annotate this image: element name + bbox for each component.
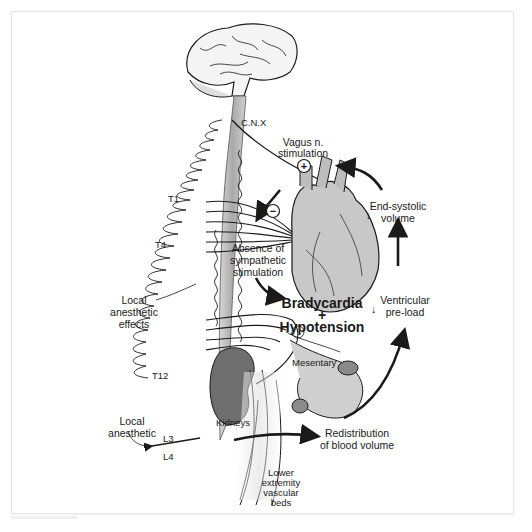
label-redistribution-2: of blood volume [320,439,394,451]
label-t4: T4 [155,239,166,250]
label-l3: L3 [163,433,174,444]
label-preload-2: pre-load [386,306,425,318]
arrow-sympathetic-to-brady [256,278,282,298]
intestine-illustration [286,332,363,418]
label-local-anesthetic-1: Local [119,415,144,427]
label-kidneys: Kidneys [216,417,250,428]
local-effects-pointer [156,284,196,300]
label-preload-1: Ventricular [380,294,430,306]
label-esv-1: End-systolic [370,200,427,212]
minus-icon: − [267,205,280,218]
label-hypotension: Hypotension [280,319,365,335]
heart-illustration [292,156,379,312]
brain-illustration [187,24,297,97]
down-arrow-preload: ↓ [371,303,376,315]
label-local-effects-2: anesthetic [110,306,158,318]
diagram-canvas: + − C.N.X Vagus n. stimulation T1 T4 T12… [0,0,532,532]
label-vagus-2: stimulation [278,147,328,159]
ganglia-chain [215,230,218,326]
label-absence-2: sympathetic [230,254,286,266]
label-local-anesthetic-2: anesthetic [108,427,156,439]
svg-text:−: − [270,205,276,217]
label-mesentary: Mesentary [292,357,337,368]
label-redistribution-1: Redistribution [325,427,389,439]
label-absence-1: Absence of [232,242,285,254]
svg-text:+: + [301,160,307,172]
label-esv-2: volume [381,212,415,224]
label-cnx: C.N.X [241,117,267,128]
label-t1: T1 [168,193,179,204]
needle [152,438,200,446]
label-absence-3: stimulation [233,266,283,278]
label-local-effects-3: effects [119,318,150,330]
label-l4: L4 [163,451,174,462]
label-local-effects-1: Local [121,294,146,306]
plus-icon: + [298,160,311,173]
label-lower-4: beds [271,497,292,508]
label-t12: T12 [152,370,168,381]
